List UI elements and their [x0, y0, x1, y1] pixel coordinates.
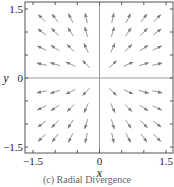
vector-arrow — [68, 120, 73, 128]
vector-arrow — [38, 121, 46, 127]
vector-arrow — [141, 14, 147, 22]
vector-arrow — [153, 106, 162, 110]
vector-arrow — [66, 90, 75, 94]
vector-arrow — [109, 88, 116, 95]
vector-arrow — [154, 134, 161, 141]
vector-arrow — [52, 134, 58, 142]
vector-arrow — [37, 46, 46, 50]
vector-arrow — [112, 133, 114, 143]
x-tick-label: −1.5 — [23, 155, 43, 167]
vector-arrow — [52, 120, 59, 127]
vector-arrow — [152, 63, 162, 65]
vector-arrow — [125, 104, 132, 111]
vector-arrow — [52, 14, 58, 22]
vector-arrow — [152, 91, 162, 93]
vector-arrow — [37, 91, 47, 93]
y-axis-label: y — [2, 71, 9, 85]
vector-arrow — [140, 120, 147, 127]
vector-arrow — [140, 105, 148, 110]
axes — [25, 2, 173, 153]
figure-caption: (c) Radial Divergence — [0, 174, 174, 185]
vector-arrow — [68, 28, 73, 36]
vector-arrow — [84, 44, 88, 53]
vector-arrow — [37, 106, 46, 110]
vector-arrow — [124, 62, 133, 66]
vector-arrow — [111, 103, 115, 112]
vector-arrow — [126, 28, 131, 36]
y-tick-label: 0 — [18, 72, 24, 84]
vector-arrow — [141, 134, 147, 142]
vector-arrow — [50, 90, 60, 93]
vector-arrow — [67, 45, 74, 52]
vector-arrow — [153, 46, 162, 50]
vector-arrow — [126, 120, 131, 128]
vector-arrow — [85, 119, 88, 129]
vector-arrow — [50, 63, 60, 66]
vector-arrow — [68, 14, 72, 23]
vector-arrow — [51, 45, 59, 50]
y-tick-label: 1.5 — [9, 3, 23, 15]
vector-arrow — [38, 134, 45, 141]
vector-arrow — [83, 88, 90, 95]
vector-arrow — [112, 13, 114, 23]
vector-arrow — [85, 133, 87, 143]
vector-arrow — [38, 15, 45, 22]
vector-arrow — [125, 45, 132, 52]
vector-arrow — [51, 105, 59, 110]
vector-arrow — [111, 27, 114, 37]
vector-arrow — [153, 29, 161, 35]
vector-arrow — [140, 45, 148, 50]
vector-arrow — [84, 103, 88, 112]
vector-arrow — [85, 13, 87, 23]
vector-arrow — [139, 90, 149, 93]
vector-arrow — [68, 133, 72, 142]
vector-arrow — [37, 63, 47, 65]
vector-arrow — [38, 29, 46, 35]
vector-arrow — [66, 62, 75, 66]
vector-arrow — [111, 44, 115, 53]
vector-arrow — [153, 121, 161, 127]
x-tick-label: 1.5 — [159, 155, 173, 167]
vector-field-plot: −1.501.5−1.501.5xy — [0, 0, 174, 187]
vector-arrow — [154, 15, 161, 22]
vector-arrow — [67, 104, 74, 111]
vector-arrow — [111, 119, 114, 129]
vector-arrow — [124, 90, 133, 94]
vector-arrow — [139, 63, 149, 66]
vector-arrow — [126, 133, 130, 142]
vector-arrow — [52, 28, 59, 35]
y-tick-label: −1.5 — [3, 141, 23, 153]
vector-arrow — [83, 61, 90, 68]
vector-arrow — [140, 28, 147, 35]
vector-arrow — [109, 61, 116, 68]
vector-arrow — [126, 14, 130, 23]
vector-arrow — [85, 27, 88, 37]
